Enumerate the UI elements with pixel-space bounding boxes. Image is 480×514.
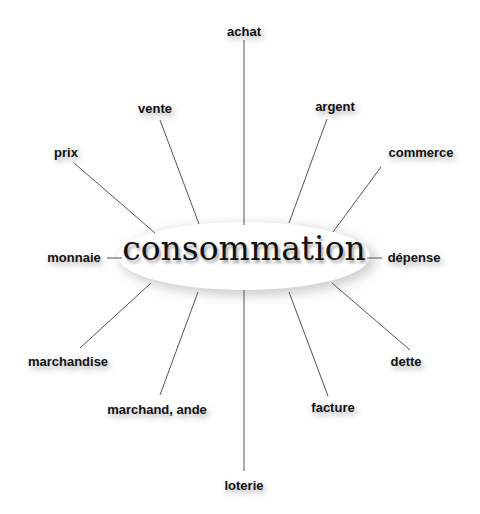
- line-marchandise: [80, 283, 151, 348]
- line-vente: [160, 120, 199, 224]
- line-commerce: [333, 167, 381, 232]
- label-dette: dette: [390, 354, 421, 369]
- line-marchand: [160, 292, 198, 395]
- label-prix: prix: [54, 145, 78, 160]
- label-achat: achat: [227, 24, 261, 39]
- label-marchand: marchand, ande: [107, 402, 207, 417]
- label-loterie: loterie: [224, 478, 263, 493]
- label-facture: facture: [311, 400, 354, 415]
- line-dette: [332, 283, 410, 350]
- label-commerce: commerce: [388, 145, 453, 160]
- line-facture: [289, 292, 328, 396]
- line-argent: [289, 119, 327, 223]
- label-depense: dépense: [388, 250, 441, 265]
- line-prix: [74, 163, 155, 233]
- label-monnaie: monnaie: [47, 250, 100, 265]
- label-vente: vente: [138, 101, 172, 116]
- label-argent: argent: [315, 99, 355, 114]
- label-marchandise: marchandise: [28, 354, 108, 369]
